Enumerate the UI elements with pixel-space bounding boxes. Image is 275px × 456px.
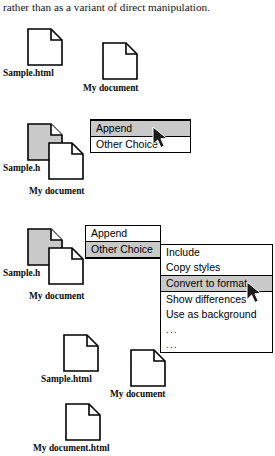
submenu-item-more-1[interactable]: ... (161, 322, 272, 337)
document-icon-sample-html[interactable] (27, 28, 63, 66)
menu-item-other-choice[interactable]: Other Choice (91, 137, 190, 152)
document-sheet-icon (48, 247, 84, 285)
document-sheet-icon (63, 334, 99, 372)
document-label-sample-truncated: Sample.h (3, 268, 40, 278)
figure-canvas: rather than as a variant of direct manip… (0, 0, 275, 456)
submenu-item-more-2[interactable]: ... (161, 337, 272, 352)
submenu-item-include[interactable]: Include (161, 245, 272, 260)
menu-item-append[interactable]: Append (86, 226, 160, 241)
document-label-sample-html: Sample.html (41, 374, 92, 384)
document-label-my-document-html: My document.html (33, 443, 110, 453)
document-label-my-document: My document (83, 83, 138, 93)
document-sheet-icon (102, 42, 138, 80)
document-label-my-document: My document (29, 291, 84, 301)
submenu-item-copy-styles[interactable]: Copy styles (161, 260, 272, 275)
menu-item-append[interactable]: Append (91, 120, 190, 137)
document-sheet-icon (65, 403, 101, 441)
context-menu-primary[interactable]: Append Other Choice (85, 225, 161, 259)
document-sheet-icon (48, 142, 84, 180)
document-icon-my-document-html[interactable] (65, 403, 101, 441)
document-label-sample-html: Sample.html (3, 68, 54, 78)
mouse-cursor-icon (246, 281, 263, 304)
mouse-cursor-icon (152, 126, 169, 149)
document-icon-my-document-target[interactable] (48, 142, 84, 180)
document-icon-my-document[interactable] (102, 42, 138, 80)
caption-text: rather than as a variant of direct manip… (3, 1, 273, 14)
document-label-my-document: My document (29, 186, 84, 196)
document-label-my-document: My document (110, 389, 165, 399)
document-icon-sample-html-result[interactable] (63, 334, 99, 372)
document-sheet-icon (130, 349, 166, 387)
menu-item-other-choice[interactable]: Other Choice (86, 241, 160, 258)
document-icon-my-document-result[interactable] (130, 349, 166, 387)
document-icon-my-document-target[interactable] (48, 247, 84, 285)
context-menu-primary[interactable]: Append Other Choice (90, 119, 191, 153)
document-label-sample-truncated: Sample.h (3, 163, 40, 173)
document-sheet-icon (27, 28, 63, 66)
submenu-item-use-as-background[interactable]: Use as background (161, 307, 272, 322)
